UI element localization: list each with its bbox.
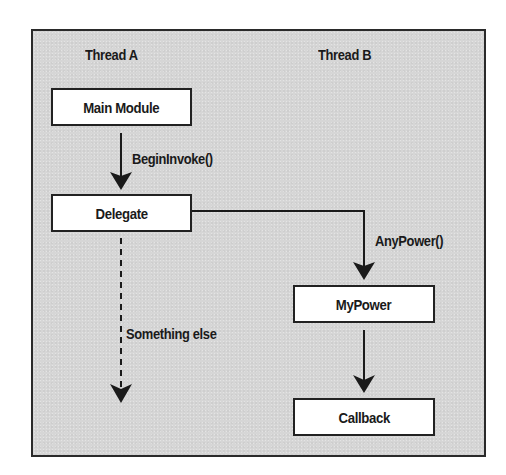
arrow-begininvoke bbox=[110, 133, 132, 190]
node-mypower: MyPower bbox=[293, 285, 435, 323]
lane-label-thread-b: Thread B bbox=[318, 46, 371, 63]
arrow-anypower bbox=[191, 211, 375, 280]
arrow-mypower-to-callback bbox=[353, 330, 375, 393]
node-callback: Callback bbox=[293, 398, 435, 436]
edge-label-anypower: AnyPower() bbox=[375, 232, 443, 249]
lane-label-thread-a: Thread A bbox=[85, 46, 138, 63]
node-main-module: Main Module bbox=[51, 88, 192, 126]
node-label: Main Module bbox=[83, 99, 159, 116]
edge-label-something-else: Something else bbox=[126, 325, 217, 342]
node-delegate: Delegate bbox=[51, 194, 192, 232]
node-label: MyPower bbox=[336, 296, 391, 313]
node-label: Callback bbox=[338, 409, 389, 426]
node-label: Delegate bbox=[95, 205, 147, 222]
arrow-something-else-dashed bbox=[110, 238, 132, 403]
edge-label-begininvoke: BeginInvoke() bbox=[132, 150, 213, 167]
thread-diagram: Thread A Thread B Main Module Delegate M… bbox=[0, 0, 506, 475]
